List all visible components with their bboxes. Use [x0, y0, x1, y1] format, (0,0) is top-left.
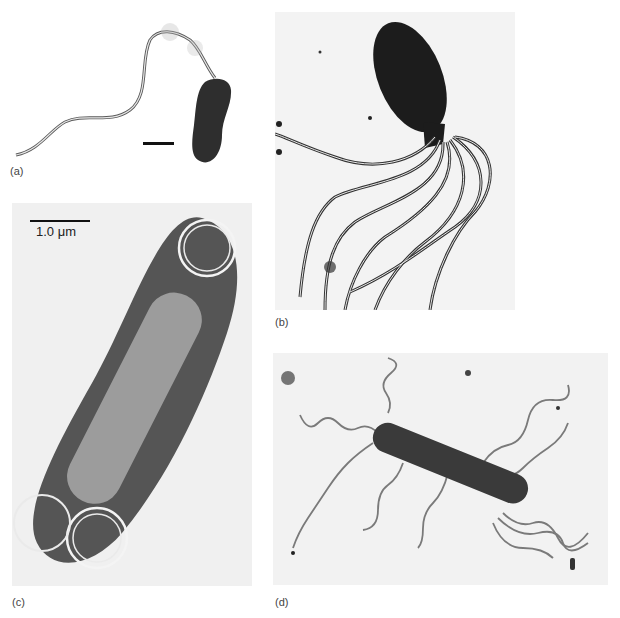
panel-a-micrograph: [0, 0, 250, 165]
panel-d-image: [273, 353, 608, 585]
panel-c-micrograph: [12, 203, 252, 586]
panel-d-micrograph: [273, 353, 608, 585]
panel-a-label: (a): [10, 165, 23, 177]
panel-c-image: [12, 203, 252, 586]
panel-b-label: (b): [275, 316, 288, 328]
panel-a-image: [0, 0, 250, 165]
panel-b-micrograph: [275, 12, 515, 310]
panel-d-label: (d): [275, 596, 288, 608]
panel-c-label: (c): [12, 596, 25, 608]
scale-bar-label: 1.0 μm: [36, 224, 76, 239]
panel-b-image: [275, 12, 515, 310]
